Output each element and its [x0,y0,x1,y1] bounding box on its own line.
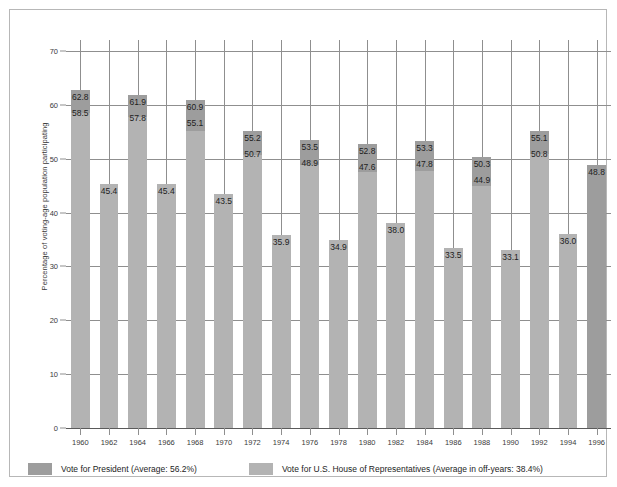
data-label-president-1976: 53.5 [302,143,319,152]
data-label-president-1972: 55.2 [244,134,261,143]
x-tick-mark [367,428,368,435]
x-tick-label-1996: 1996 [588,438,605,447]
y-tick-label: 60 [50,100,58,109]
y-tick-label: 70 [50,47,58,56]
bar-1992: 55.150.8 [530,131,549,428]
y-tick-mark [60,266,66,267]
x-tick-mark [396,428,397,435]
y-tick-label: 20 [50,316,58,325]
data-label-president-1984: 53.3 [416,144,433,153]
plot-area: 010203040506070 62.858.545.461.957.845.4… [66,51,611,428]
legend-swatch-house [249,463,273,475]
y-tick-mark [60,158,66,159]
x-tick-mark [252,428,253,435]
data-label-president-1968: 60.9 [187,103,204,112]
bar-1962: 45.4 [100,184,119,429]
x-tick-mark [109,428,110,435]
data-label-president-1996: 48.8 [588,168,605,177]
legend-item-president: Vote for President (Average: 56.2%) [28,463,197,475]
data-label-president-1992: 55.1 [531,134,548,143]
legend-label: Vote for U.S. House of Representatives (… [282,464,543,474]
x-tick-mark [568,428,569,435]
bar-1960: 62.858.5 [71,90,90,428]
data-label-president-1988: 50.3 [474,160,491,169]
x-tick-label-1992: 1992 [531,438,548,447]
x-tick-mark [195,428,196,435]
data-label-house-1990: 33.1 [502,253,519,262]
x-tick-label-1964: 1964 [129,438,146,447]
x-tick-label-1990: 1990 [502,438,519,447]
data-label-house-1962: 45.4 [101,187,118,196]
data-label-house-1974: 35.9 [273,238,290,247]
bar-1980: 52.847.6 [358,144,377,428]
bar-1988: 50.344.9 [472,157,491,428]
bar-1982: 38.0 [386,223,405,428]
bar-1966: 45.4 [157,184,176,429]
x-tick-mark [224,428,225,435]
bar-1976: 53.548.9 [300,140,319,428]
legend-label: Vote for President (Average: 56.2%) [61,464,197,474]
data-label-house-1994: 36.0 [560,237,577,246]
data-label-house-1978: 34.9 [330,243,347,252]
x-tick-mark [453,428,454,435]
x-tick-mark [80,428,81,435]
data-label-house-1966: 45.4 [158,187,175,196]
y-tick-label: 10 [50,370,58,379]
y-tick-label: 50 [50,154,58,163]
y-tick-label: 40 [50,208,58,217]
data-label-house-1964: 57.8 [129,114,146,123]
bar-1964: 61.957.8 [128,95,147,428]
y-tick-mark [60,320,66,321]
x-tick-label-1968: 1968 [187,438,204,447]
x-tick-label-1988: 1988 [474,438,491,447]
bar-1996: 48.8 [587,165,606,428]
data-label-president-1964: 61.9 [129,98,146,107]
bar-1972: 55.250.7 [243,131,262,428]
x-tick-label-1980: 1980 [359,438,376,447]
x-tick-mark [539,428,540,435]
data-label-house-1980: 47.6 [359,163,376,172]
y-tick-label: 30 [50,262,58,271]
chart-legend: Vote for President (Average: 56.2%)Vote … [28,457,608,481]
data-label-house-1982: 38.0 [388,226,405,235]
y-tick-mark [60,51,66,52]
data-label-president-1980: 52.8 [359,147,376,156]
x-tick-mark [482,428,483,435]
bar-1968: 60.955.1 [186,100,205,428]
x-tick-mark [425,428,426,435]
legend-item-house: Vote for U.S. House of Representatives (… [249,463,543,475]
x-tick-label-1994: 1994 [560,438,577,447]
bar-1984: 53.347.8 [415,141,434,428]
bar-1970: 43.5 [214,194,233,428]
y-tick-mark [60,428,66,429]
data-label-house-1988: 44.9 [474,176,491,185]
y-tick-mark [60,212,66,213]
x-tick-label-1962: 1962 [101,438,118,447]
x-tick-mark [511,428,512,435]
y-axis-title: Percentage of voting-age population part… [40,77,49,337]
bar-1978: 34.9 [329,240,348,428]
x-tick-label-1966: 1966 [158,438,175,447]
bar-1986: 33.5 [444,248,463,428]
chart-figure: Percentage of voting-age population part… [0,0,617,487]
x-tick-label-1982: 1982 [388,438,405,447]
data-label-house-1970: 43.5 [215,197,232,206]
x-tick-label-1984: 1984 [416,438,433,447]
data-label-house-1972: 50.7 [244,150,261,159]
x-tick-mark [281,428,282,435]
y-tick-mark [60,374,66,375]
data-label-house-1976: 48.9 [302,159,319,168]
x-tick-label-1978: 1978 [330,438,347,447]
bar-1994: 36.0 [559,234,578,428]
y-tick-label: 0 [54,424,58,433]
x-tick-mark [310,428,311,435]
data-label-house-1992: 50.8 [531,150,548,159]
data-label-president-1960: 62.8 [72,93,89,102]
x-tick-label-1976: 1976 [301,438,318,447]
chart-frame: Percentage of voting-age population part… [9,9,607,477]
x-tick-label-1970: 1970 [215,438,232,447]
x-tick-label-1986: 1986 [445,438,462,447]
y-tick-mark [60,104,66,105]
x-tick-mark [166,428,167,435]
bar-1974: 35.9 [272,235,291,428]
